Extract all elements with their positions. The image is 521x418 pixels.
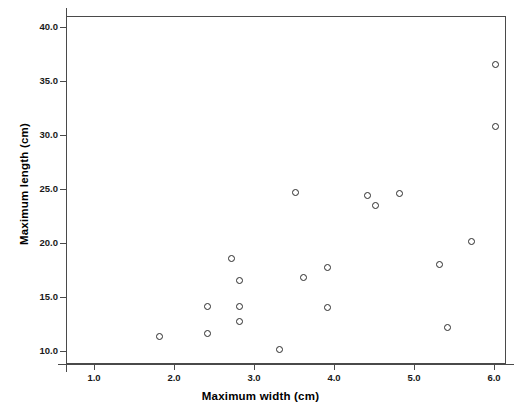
data-point [372, 202, 379, 209]
y-tick-label: 25.0 [30, 183, 58, 194]
plot-frame [66, 16, 506, 364]
y-tick-label: 40.0 [30, 21, 58, 32]
plot-data-area [67, 17, 505, 363]
y-tick-mark [60, 189, 66, 190]
data-point [364, 192, 371, 199]
data-point [204, 330, 211, 337]
y-axis-title: Maximum length (cm) [18, 74, 30, 294]
scatter-plot-figure: 10.015.020.025.030.035.040.0 1.02.03.04.… [0, 0, 521, 418]
y-tick-label: 20.0 [30, 237, 58, 248]
data-point [444, 324, 451, 331]
data-point [292, 189, 299, 196]
data-point [324, 304, 331, 311]
y-tick-label: 30.0 [30, 129, 58, 140]
data-point [492, 61, 499, 68]
x-tick-label: 1.0 [74, 372, 114, 383]
y-tick-mark [60, 27, 66, 28]
data-point [204, 303, 211, 310]
data-point [236, 303, 243, 310]
y-tick-mark [60, 351, 66, 352]
x-tick-mark [494, 364, 495, 370]
data-point [492, 123, 499, 130]
x-tick-mark [254, 364, 255, 370]
x-tick-label: 3.0 [234, 372, 274, 383]
data-point [300, 274, 307, 281]
x-tick-mark [334, 364, 335, 370]
data-point [156, 333, 163, 340]
x-tick-label: 5.0 [394, 372, 434, 383]
y-tick-label: 35.0 [30, 75, 58, 86]
y-tick-mark [60, 243, 66, 244]
data-point [324, 264, 331, 271]
x-tick-label: 6.0 [474, 372, 514, 383]
x-tick-label: 2.0 [154, 372, 194, 383]
x-tick-mark [414, 364, 415, 370]
y-tick-mark [60, 135, 66, 136]
y-tick-mark [60, 81, 66, 82]
x-tick-label: 4.0 [314, 372, 354, 383]
y-tick-label: 15.0 [30, 291, 58, 302]
y-tick-label: 10.0 [30, 345, 58, 356]
data-point [436, 261, 443, 268]
x-tick-mark [174, 364, 175, 370]
data-point [228, 255, 235, 262]
x-axis-title: Maximum width (cm) [0, 390, 521, 402]
y-tick-mark [60, 297, 66, 298]
x-axis-line [58, 364, 514, 365]
data-point [236, 277, 243, 284]
data-point [396, 190, 403, 197]
data-point [276, 346, 283, 353]
data-point [468, 238, 475, 245]
x-tick-mark [94, 364, 95, 370]
data-point [236, 318, 243, 325]
